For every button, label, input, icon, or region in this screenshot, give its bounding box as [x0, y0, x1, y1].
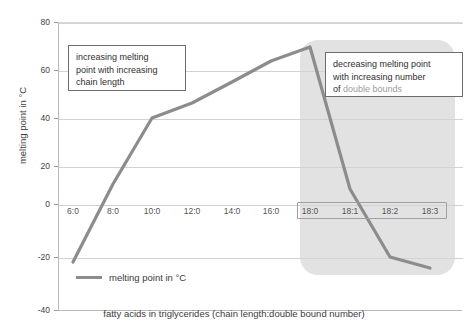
annotation-left-line-3: chain length [76, 76, 178, 89]
y-axis-title: melting point in °C [17, 56, 28, 196]
y-tick-label-80: 80 [8, 18, 50, 26]
x-tick-label-16-0: 16:0 [249, 206, 293, 216]
legend-entry-label: melting point in °C [109, 272, 186, 283]
y-tick-mark-0 [54, 204, 58, 205]
chart-container: 80 60 40 20 0 -20 -40 melting point in °… [0, 0, 468, 326]
y-tick-mark-20 [54, 166, 58, 167]
y-tick-label-60: 60 [8, 66, 50, 74]
x-tick-label-8-0: 8:0 [91, 206, 135, 216]
annotation-right-line-3-prefix: of [333, 84, 343, 94]
annotation-increasing-chain-length: increasing melting point with increasing… [68, 45, 186, 91]
y-tick-label-20: 20 [8, 162, 50, 170]
annotation-left-line-2: point with increasing [76, 64, 178, 77]
annotation-decreasing-double-bounds: decreasing melting point with increasing… [325, 52, 463, 97]
y-tick-mark-neg20 [54, 257, 58, 258]
x-tick-label-18-3: 18:3 [408, 206, 452, 216]
y-tick-label-neg20: -20 [8, 253, 50, 261]
legend-swatch-icon [76, 276, 102, 279]
annotation-right-line-1: decreasing melting point [333, 58, 455, 71]
y-tick-label-40: 40 [8, 114, 50, 122]
x-tick-label-18-0: 18:0 [288, 206, 332, 216]
x-tick-label-14-0: 14:0 [210, 206, 254, 216]
y-tick-mark-40 [54, 118, 58, 119]
gridline-80 [59, 23, 463, 24]
y-tick-mark-60 [54, 70, 58, 71]
chart-legend: melting point in °C [76, 272, 186, 283]
gridline-20 [59, 167, 463, 168]
y-tick-mark-80 [54, 22, 58, 23]
x-tick-label-12-0: 12:0 [170, 206, 214, 216]
x-tick-label-10-0: 10:0 [130, 206, 174, 216]
gridline-40 [59, 119, 463, 120]
annotation-right-line-3-muted: double bounds [343, 84, 402, 94]
x-tick-label-18-2: 18:2 [368, 206, 412, 216]
annotation-right-line-2: with increasing number [333, 71, 455, 84]
x-tick-label-18-1: 18:1 [328, 206, 372, 216]
annotation-left-line-1: increasing melting [76, 51, 178, 64]
x-tick-label-6-0: 6:0 [51, 206, 95, 216]
annotation-right-line-3: of double bounds [333, 83, 455, 96]
gridline-neg20 [59, 258, 463, 259]
x-axis-title: fatty acids in triglycerides (chain leng… [0, 308, 468, 319]
y-tick-label-0: 0 [8, 200, 50, 208]
